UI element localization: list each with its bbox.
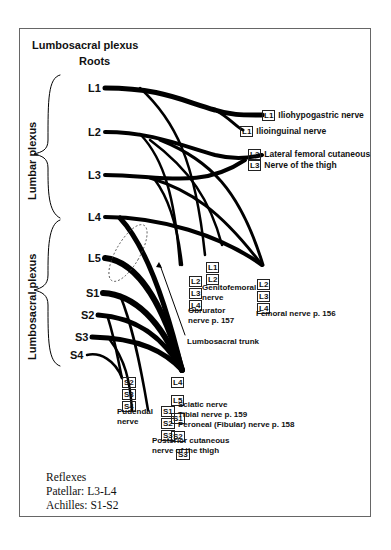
patellar-reflex: Patellar: L3-L4	[46, 484, 119, 498]
genitofemoral-segments: L1 L2	[206, 262, 219, 285]
root-s2: S2	[81, 310, 94, 320]
nerve-diagram	[0, 0, 391, 550]
diagram-title: Lumbosacral plexus	[32, 40, 138, 50]
root-l4: L4	[88, 212, 101, 222]
femoral-label: Femoral nerve p. 156	[256, 309, 336, 319]
root-s3: S3	[75, 332, 88, 342]
root-s4: S4	[70, 350, 83, 360]
root-l1: L1	[88, 83, 101, 93]
lateral-femoral-cutaneous-nerve: L2Lateral femoral cutaneous L3Nerve of t…	[248, 149, 370, 171]
root-l5: L5	[88, 253, 101, 263]
iliohypogastric-nerve: L1Iliohypogastric nerve	[262, 110, 364, 121]
root-s1: S1	[86, 288, 99, 298]
lumbar-plexus-label: Lumbar plexus	[26, 122, 38, 200]
reflexes-header: Reflexes	[46, 470, 119, 484]
posterior-cutaneous-label: Posterior cutaneousnerve of the thigh	[152, 436, 229, 456]
root-l2: L2	[88, 127, 101, 137]
ilioinguinal-nerve: L1Ilioinguinal nerve	[240, 126, 326, 137]
obturator-label: Obruratornerve p. 157	[188, 306, 234, 326]
lumbosacral-plexus-label: Lumbosacral plexus	[26, 254, 38, 360]
root-l3: L3	[88, 170, 101, 180]
lumbosacral-trunk-label: Lumbosacral trunk	[187, 337, 259, 347]
reflexes-block: Reflexes Patellar: L3-L4 Achilles: S1-S2	[46, 470, 119, 512]
genitofemoral-label: Genitofemoralnerve	[202, 283, 256, 303]
achilles-reflex: Achilles: S1-S2	[46, 498, 119, 512]
sciatic-label: Sciatic nerve Tibial nerve p. 159 Perone…	[178, 400, 294, 430]
pudendal-label: Pudendalnerve	[117, 407, 153, 427]
roots-header: Roots	[79, 56, 110, 66]
